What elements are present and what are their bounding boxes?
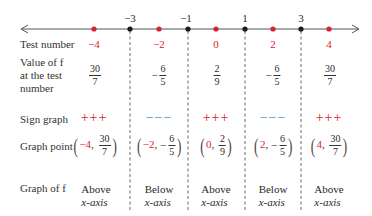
test-number-cell: −4 bbox=[88, 38, 100, 51]
graph-of-f-cell: Abovex-axis bbox=[314, 183, 343, 209]
graph-of-f-cell: Abovex-axis bbox=[81, 183, 110, 209]
graph-point-cell: (2, −65) bbox=[253, 134, 294, 157]
graph-point-cell: (0, 29) bbox=[199, 134, 234, 157]
graph-of-f-cell: Belowx-axis bbox=[259, 183, 288, 209]
critical-label: 3 bbox=[298, 12, 304, 24]
row-label-value-of-f: Value of f at the test number bbox=[20, 56, 63, 95]
row-label-graph-point: Graph point bbox=[20, 140, 73, 153]
f-value-cell: −65 bbox=[151, 64, 166, 87]
graph-point-cell: (4, 307) bbox=[309, 134, 349, 157]
sign-cell-positive: +++ bbox=[81, 111, 108, 124]
graph-point-cell: (−4, 307) bbox=[72, 134, 118, 157]
graph-of-f-cell: Belowx-axis bbox=[145, 183, 174, 209]
f-value-cell: 307 bbox=[87, 64, 101, 87]
row-label-sign-graph: Sign graph bbox=[20, 113, 68, 126]
sign-cell-negative: −−− bbox=[146, 111, 173, 124]
graph-point-cell: (−2, −65) bbox=[135, 134, 182, 157]
row-label-test-number: Test number bbox=[20, 38, 75, 51]
sign-cell-positive: +++ bbox=[203, 111, 230, 124]
graph-of-f-cell: Abovex-axis bbox=[201, 183, 230, 209]
critical-label: 1 bbox=[242, 12, 248, 24]
f-value-cell: 307 bbox=[322, 64, 336, 87]
critical-label: −3 bbox=[124, 12, 136, 24]
test-number-cell: 4 bbox=[326, 38, 332, 51]
critical-label: −1 bbox=[180, 12, 192, 24]
test-number-cell: 0 bbox=[213, 38, 219, 51]
sign-cell-negative: −−− bbox=[260, 111, 287, 124]
f-value-cell: 29 bbox=[212, 64, 221, 87]
sign-cell-positive: +++ bbox=[316, 111, 343, 124]
test-number-cell: 2 bbox=[270, 38, 276, 51]
f-value-cell: −65 bbox=[265, 64, 280, 87]
row-label-graph-of-f: Graph of f bbox=[20, 182, 66, 195]
test-number-cell: −2 bbox=[153, 38, 165, 51]
